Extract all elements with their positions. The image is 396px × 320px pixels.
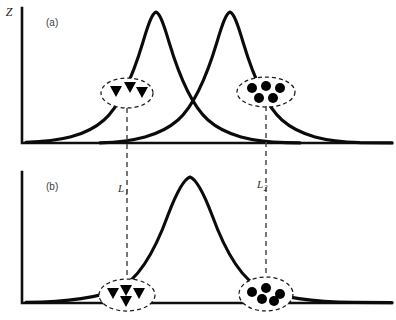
circle-marker bbox=[247, 287, 257, 297]
panel-a-circle-cluster bbox=[237, 77, 295, 107]
panel-a-y-axis-label: Z bbox=[6, 5, 13, 19]
panel-b-axes bbox=[22, 172, 392, 303]
circle-marker bbox=[268, 93, 278, 103]
circle-marker bbox=[261, 283, 271, 293]
projection-l1-label-base: L bbox=[117, 182, 124, 194]
projection-l2-label-sub: 2 bbox=[264, 184, 268, 193]
projection-l1-label-sub: 1 bbox=[125, 188, 129, 197]
panel-a-right-curve bbox=[100, 12, 392, 143]
circle-marker bbox=[254, 93, 264, 103]
panel-a-label: (a) bbox=[46, 17, 58, 28]
projection-l2-label-base: L bbox=[256, 178, 263, 190]
circle-marker bbox=[257, 294, 267, 304]
circle-marker bbox=[247, 83, 257, 93]
panel-b-label: (b) bbox=[46, 181, 58, 192]
circle-marker bbox=[261, 81, 271, 91]
panel-a-group: Z (a) bbox=[6, 5, 392, 143]
figure-container: Z (a) bbox=[0, 0, 396, 320]
circle-marker bbox=[275, 83, 285, 93]
projection-lines-group: L1 L2 bbox=[117, 106, 268, 292]
circle-marker bbox=[269, 296, 279, 306]
panel-b-group: (b) bbox=[22, 172, 392, 311]
panel-b-merged-curve bbox=[26, 177, 392, 303]
panel-b-circle-cluster bbox=[239, 277, 293, 311]
triangle-cluster-ellipse bbox=[99, 279, 155, 311]
panel-b-triangle-cluster bbox=[99, 279, 155, 311]
panel-a-triangle-cluster bbox=[101, 78, 153, 108]
figure-canvas: Z (a) bbox=[0, 0, 396, 320]
